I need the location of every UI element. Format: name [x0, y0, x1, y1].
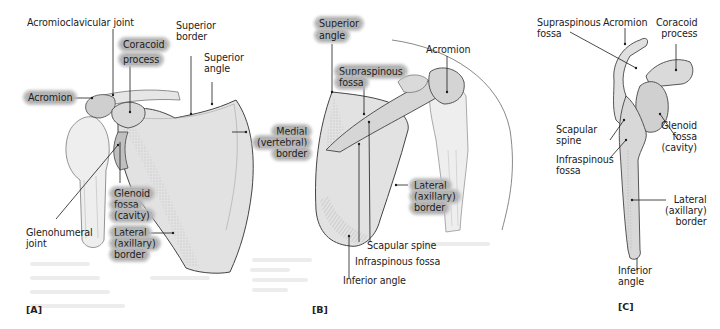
label-scapular-spine-b: Scapular spine — [367, 240, 436, 251]
label-superior-angle-b: Superior angle — [316, 18, 362, 42]
label-infraspinous-fossa-b: Infraspinous fossa — [355, 256, 440, 267]
label-inferior-angle-c: Inferiorangle — [618, 265, 652, 287]
label-supraspinous-fossa-b: Supraspinous fossa — [336, 66, 406, 88]
panel-label-a: [A] — [26, 304, 42, 315]
label-lateral-border-b: Lateral (axillary) border — [411, 180, 459, 214]
label-lateral-border-c: Lateral (axillary) border — [665, 194, 707, 228]
label-acromion-c: Acromion — [603, 17, 647, 28]
scapula-figure: Acromioclavicular joint Coracoid process… — [0, 0, 720, 329]
label-infraspinous-fossa-c: Infraspinousfossa — [556, 154, 614, 176]
label-glenoid-fossa-c: Glenoid fossa (cavity) — [661, 120, 697, 154]
label-acromion-b: Acromion — [426, 44, 470, 55]
label-lateral-border-a: Lateral (axillary) border — [111, 227, 159, 261]
label-scapular-spine-c: Scapularspine — [556, 124, 597, 146]
label-inferior-angle-b: Inferior angle — [343, 275, 406, 286]
label-glenohumeral-joint: Glenohumeraljoint — [26, 227, 93, 249]
label-coracoid-process-c: Coracoidprocess — [656, 17, 698, 39]
label-medial-border: Medial (vertebral) border — [254, 126, 310, 160]
label-acromion-a: Acromion — [25, 92, 75, 103]
coracoid-line2: process — [120, 54, 162, 65]
label-superior-border: Superiorborder — [176, 20, 216, 42]
panel-label-b: [B] — [312, 304, 328, 315]
label-acromioclavicular-joint: Acromioclavicular joint — [27, 17, 134, 28]
panel-label-c: [C] — [618, 301, 634, 312]
label-supraspinous-fossa-c: Supraspinousfossa — [537, 17, 601, 39]
coracoid-line1: Coracoid — [120, 39, 168, 50]
label-coracoid-process-a: Coracoid process — [120, 37, 168, 67]
label-superior-angle-a: Superiorangle — [204, 52, 244, 74]
label-glenoid-fossa-a: Glenoid fossa (cavity) — [111, 188, 153, 222]
